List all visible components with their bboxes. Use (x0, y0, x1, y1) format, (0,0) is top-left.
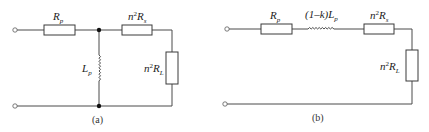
inductor-leak-b (308, 28, 334, 30)
resistor-rp-a (44, 25, 75, 35)
label-n2rl-b: n2RL (380, 60, 400, 75)
terminal-a-top (13, 28, 17, 32)
junction-dot-top-a (97, 28, 101, 32)
label-n2rl-a: n2RL (144, 62, 164, 77)
circuit-a: Rp Lp n2Rs n2RL (a) (13, 10, 178, 126)
wire-b-bottom (227, 81, 412, 104)
wire-a-bottom (17, 84, 172, 106)
label-rp-b: Rp (269, 9, 281, 24)
terminal-a-bottom (13, 104, 17, 108)
wire-b-top-right (394, 29, 412, 50)
terminal-b-top (225, 27, 229, 31)
label-leak-b: (1–k)Lp (305, 8, 338, 23)
resistor-n2rs-a (122, 25, 152, 35)
resistor-n2rl-a (166, 52, 178, 84)
resistor-n2rl-b (406, 50, 418, 81)
inductor-lp-a (99, 55, 101, 81)
caption-b: (b) (312, 112, 324, 124)
resistor-n2rs-b (364, 24, 394, 34)
label-rp-a: Rp (52, 10, 64, 25)
label-n2rs-a: n2Rs (128, 10, 147, 25)
terminal-b-bottom (223, 102, 227, 106)
junction-dot-bottom-a (97, 104, 101, 108)
caption-a: (a) (92, 114, 103, 126)
circuit-b: Rp (1–k)Lp n2Rs n2RL (b) (223, 8, 418, 124)
resistor-rp-b (261, 24, 292, 34)
wire-a-top-right (152, 30, 172, 52)
label-n2rs-b: n2Rs (370, 9, 389, 24)
label-lp-a: Lp (81, 62, 92, 77)
circuit-figure: Rp Lp n2Rs n2RL (a) Rp (1–k)Lp n2Rs n2RL… (0, 0, 429, 132)
